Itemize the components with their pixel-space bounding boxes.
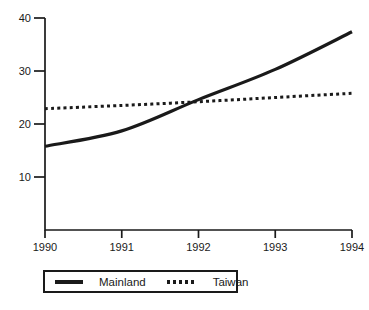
y-axis-tick-label: 20 — [19, 118, 31, 130]
solid-line-icon — [55, 280, 83, 284]
mainland-line — [45, 32, 352, 146]
y-axis-tick-label: 10 — [19, 171, 31, 183]
legend-label-mainland: Mainland — [99, 276, 146, 288]
legend: Mainland Taiwan — [43, 270, 238, 293]
y-axis-tick-label: 40 — [19, 12, 31, 24]
x-axis-tick-label: 1990 — [33, 241, 57, 253]
x-axis-tick-label: 1992 — [186, 241, 210, 253]
x-axis-tick-label: 1994 — [340, 241, 364, 253]
axes — [45, 18, 352, 230]
x-axis-tick-label: 1993 — [263, 241, 287, 253]
line-chart-figure: 1020304019901991199219931994 Mainland Ta… — [0, 0, 369, 310]
dotted-line-icon — [167, 280, 197, 284]
y-axis-tick-label: 30 — [19, 65, 31, 77]
x-axis-tick-label: 1991 — [110, 241, 134, 253]
legend-label-taiwan: Taiwan — [213, 276, 249, 288]
line-chart: 1020304019901991199219931994 — [0, 0, 369, 262]
